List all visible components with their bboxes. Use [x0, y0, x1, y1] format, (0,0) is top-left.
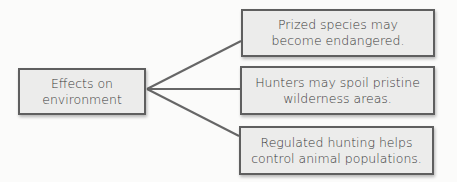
root-node-line-1: Effects on — [42, 76, 122, 92]
child-node-2-line-1: Hunters may spoil pristine — [255, 75, 420, 91]
child-node-2-line-2: wilderness areas. — [255, 91, 420, 107]
connector-line-3 — [147, 89, 239, 136]
root-node-effects-on-environment: Effects on environment — [18, 68, 146, 115]
child-node-prized-species: Prized species may become endangered. — [241, 9, 435, 57]
child-node-1-line-1: Prized species may — [272, 17, 405, 33]
root-node-line-2: environment — [42, 92, 122, 108]
child-node-3-line-1: Regulated hunting helps — [251, 135, 422, 151]
child-node-regulated-hunting: Regulated hunting helps control animal p… — [239, 126, 434, 175]
child-node-3-line-2: control animal populations. — [251, 151, 422, 167]
connector-line-1 — [147, 41, 241, 89]
child-node-hunters-spoil: Hunters may spoil pristine wilderness ar… — [240, 66, 435, 115]
child-node-1-line-2: become endangered. — [272, 33, 405, 49]
